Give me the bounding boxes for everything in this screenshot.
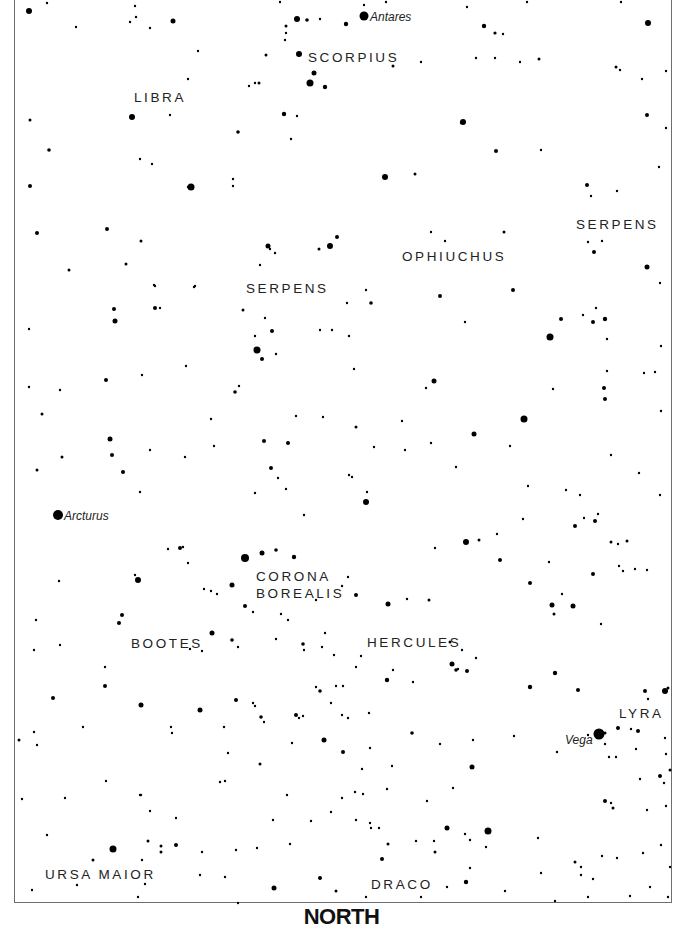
star (667, 896, 669, 898)
star (373, 446, 375, 448)
star (178, 546, 182, 550)
star (149, 810, 151, 812)
star (645, 20, 651, 26)
star (129, 21, 131, 23)
star (362, 793, 364, 795)
star (318, 876, 322, 880)
star (135, 577, 141, 583)
star (294, 713, 298, 717)
star (385, 678, 389, 682)
star (129, 114, 135, 120)
star (260, 551, 265, 556)
star (382, 174, 388, 180)
star (355, 819, 357, 821)
star (597, 513, 599, 515)
star (513, 735, 515, 737)
star (615, 66, 618, 69)
star (344, 22, 348, 26)
star (139, 703, 144, 708)
star (33, 731, 35, 733)
star (590, 195, 592, 197)
star (201, 851, 203, 853)
star (414, 173, 417, 176)
star (137, 896, 139, 898)
star (224, 780, 226, 782)
star (160, 851, 163, 854)
star (645, 265, 650, 270)
star (216, 593, 218, 595)
star (410, 731, 414, 735)
star (171, 19, 176, 24)
star (174, 843, 178, 847)
constellation-label-bootes: BOOTES (131, 636, 203, 651)
star (629, 895, 631, 897)
star (420, 896, 422, 898)
star (380, 857, 384, 861)
star (540, 149, 542, 151)
constellation-label-scorpius: SCORPIUS (308, 50, 399, 65)
star (213, 445, 215, 447)
star (285, 488, 287, 490)
star (294, 16, 300, 22)
star (182, 546, 184, 548)
star (264, 317, 266, 319)
star (105, 780, 107, 782)
star (591, 320, 595, 324)
star (342, 685, 344, 687)
star (368, 712, 370, 714)
star (141, 859, 143, 861)
star (51, 696, 55, 700)
star (493, 31, 496, 34)
star (266, 244, 271, 249)
star (665, 127, 667, 129)
star (573, 524, 577, 528)
star (574, 861, 577, 864)
star (610, 541, 613, 544)
star (322, 738, 327, 743)
star (280, 613, 282, 615)
star-label-antares: Antares (369, 10, 411, 24)
star (622, 570, 624, 572)
star (616, 726, 620, 730)
star (169, 114, 171, 116)
star (663, 782, 665, 784)
star (235, 849, 237, 851)
star (509, 445, 511, 447)
star (28, 184, 32, 188)
star (494, 149, 498, 153)
star (330, 811, 332, 813)
star (547, 334, 554, 341)
star (528, 581, 532, 585)
star (433, 840, 435, 842)
star (219, 781, 221, 783)
star (583, 517, 585, 519)
star (659, 282, 661, 284)
star (277, 477, 279, 479)
star (591, 572, 595, 576)
star (455, 466, 457, 468)
star (430, 231, 432, 233)
star (365, 896, 367, 898)
star (230, 583, 235, 588)
star (18, 739, 21, 742)
star (64, 797, 66, 799)
star (432, 379, 437, 384)
star (475, 657, 477, 659)
star (254, 705, 256, 707)
star (658, 166, 660, 168)
star (256, 847, 258, 849)
star (664, 737, 666, 739)
star (187, 186, 189, 188)
star (595, 307, 597, 309)
star (318, 248, 321, 251)
constellation-label-borealis: BOREALIS (256, 586, 344, 601)
star (412, 681, 414, 683)
star (141, 374, 143, 376)
star (348, 335, 350, 337)
star (618, 565, 620, 567)
star (553, 613, 556, 616)
star (494, 57, 496, 59)
star (580, 874, 582, 876)
star (561, 593, 563, 595)
star (82, 726, 84, 728)
